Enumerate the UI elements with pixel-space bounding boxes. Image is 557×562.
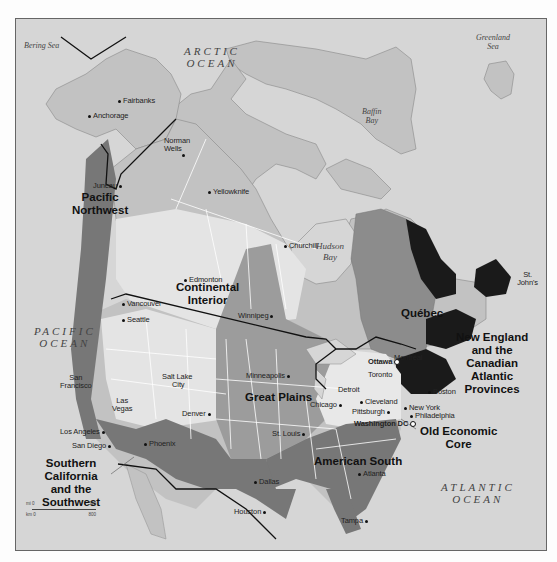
city-juneau: Juneau	[93, 181, 124, 190]
label-baffin-bay: BaffinBay	[362, 107, 382, 125]
city-pittsburgh: Pittsburgh	[352, 407, 392, 416]
city-las-vegas: LasVegas	[112, 397, 132, 413]
city-yellowknife: Yellowknife	[206, 187, 249, 196]
map-frame: Bering Sea ARCTICOCEAN GreenlandSea Baff…	[15, 18, 547, 551]
city-anchorage: Anchorage	[86, 111, 128, 120]
region-american-south: American South	[314, 455, 402, 468]
city-san-diego: San Diego	[72, 441, 113, 450]
city-houston: Houston	[234, 507, 268, 516]
city-atlanta: Atlanta	[356, 469, 386, 478]
city-dot	[182, 154, 185, 157]
city-seattle: Seattle	[120, 315, 150, 324]
label-hudson-bay: HudsonBay	[316, 241, 344, 263]
city-winnipeg: Winnipeg	[238, 311, 275, 320]
city-san-francisco: SanFrancisco	[60, 374, 92, 390]
label-bering-sea: Bering Sea	[24, 41, 59, 50]
label-atlantic-ocean: ATLANTICOCEAN	[441, 481, 515, 505]
city-edmonton: Edmonton	[182, 275, 222, 284]
label-arctic-ocean: ARCTICOCEAN	[184, 45, 240, 69]
city-detroit: Detroit	[338, 385, 359, 394]
scale-bar: mi 0 500 km 0 800	[26, 501, 96, 519]
city-dallas: Dallas	[252, 477, 279, 486]
region-quebec: Québec	[401, 307, 443, 320]
city-denver: Denver	[182, 409, 213, 418]
region-continental-interior: ContinentalInterior	[176, 281, 239, 307]
label-pacific-ocean: PACIFICOCEAN	[34, 325, 96, 349]
city-phoenix: Phoenix	[142, 439, 175, 448]
city-norman-wells: NormanWells	[164, 137, 190, 153]
city-st-louis: St. Louis	[272, 429, 307, 438]
city-montreal: Montréal	[394, 353, 422, 362]
city-tampa: Tampa	[341, 516, 370, 525]
city-toronto: Toronto	[368, 370, 392, 379]
region-great-plains: Great Plains	[245, 391, 312, 404]
city-chicago: Chicago	[310, 400, 344, 409]
city-fairbanks: Fairbanks	[116, 96, 155, 105]
label-greenland-sea: GreenlandSea	[476, 33, 510, 51]
city-washington-dc: Washington DC	[354, 419, 418, 428]
region-pacific-northwest: PacificNorthwest	[72, 191, 128, 217]
city-churchill: Churchill	[282, 241, 317, 250]
region-new-england-atlantic: New Englandand theCanadianAtlanticProvin…	[456, 331, 528, 396]
city-cleveland: Cleveland	[358, 397, 397, 406]
region-old-economic-core: Old EconomicCore	[420, 425, 497, 451]
city-vancouver: Vancouver	[120, 299, 161, 308]
city-st-johns: St.John's	[517, 271, 538, 287]
city-boston: Boston	[426, 387, 456, 396]
city-salt-lake-city: Salt LakeCity	[162, 373, 192, 389]
city-los-angeles: Los Angeles	[60, 427, 107, 436]
city-minneapolis: Minneapolis	[246, 371, 292, 380]
